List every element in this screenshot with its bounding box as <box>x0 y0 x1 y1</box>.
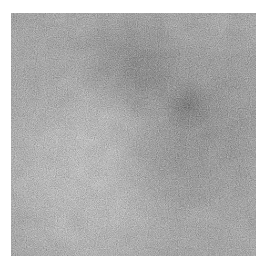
grain-texture-overlay <box>11 13 256 256</box>
grain-light-layer <box>11 13 256 256</box>
page-background <box>0 0 269 269</box>
noise-image <box>11 13 256 256</box>
